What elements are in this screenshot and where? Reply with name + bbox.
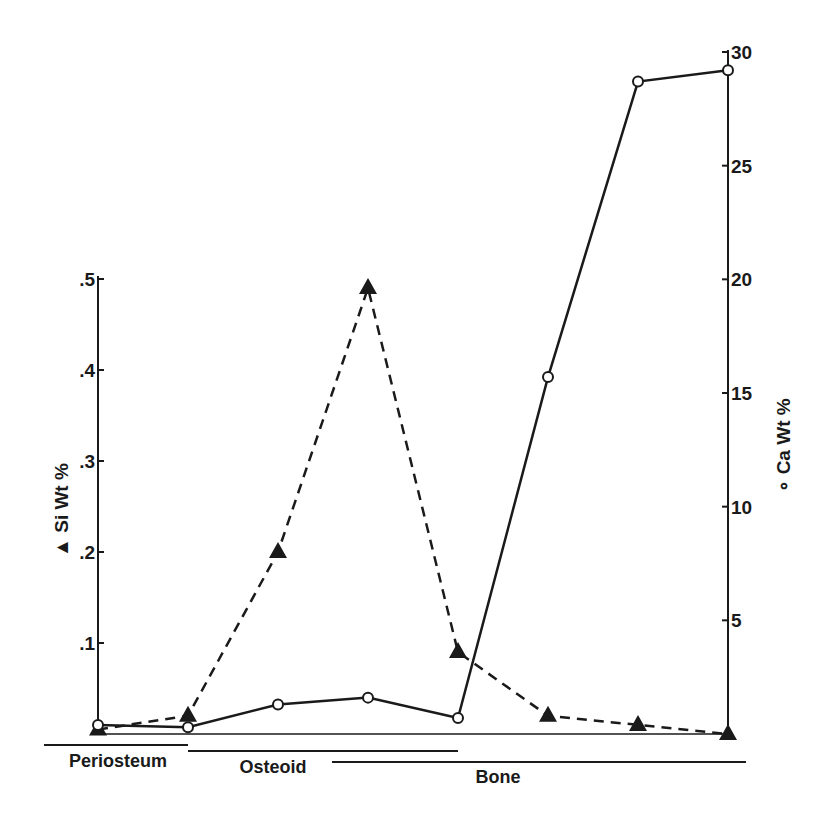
right-axis-tick-label: 30 — [731, 42, 752, 63]
triangle-marker-icon — [179, 706, 197, 722]
region-label-periosteum: Periosteum — [69, 751, 167, 771]
region-label-bone: Bone — [476, 767, 521, 787]
circle-marker-icon — [633, 77, 643, 87]
axes: .1.2.3.4.551015202530 — [79, 42, 752, 734]
circle-marker-icon — [93, 720, 103, 730]
region-label-osteoid: Osteoid — [239, 757, 306, 777]
chart-figure: .1.2.3.4.551015202530 ▲ Si Wt % ∘ Ca Wt … — [0, 0, 823, 814]
circle-marker-icon — [453, 713, 463, 723]
triangle-marker-icon — [629, 715, 647, 731]
circle-marker-icon — [273, 699, 283, 709]
series-layer — [89, 65, 737, 740]
left-axis-tick-label: .3 — [79, 451, 95, 472]
si-series-line — [98, 288, 728, 734]
left-axis-tick-label: .4 — [79, 360, 95, 381]
left-axis-tick-label: .2 — [79, 542, 95, 563]
triangle-marker-icon — [449, 642, 467, 658]
right-axis-tick-label: 20 — [731, 269, 752, 290]
triangle-marker-icon — [359, 278, 377, 294]
right-axis-tick-label: 25 — [731, 156, 753, 177]
right-axis-tick-label: 15 — [731, 383, 753, 404]
right-axis-title: ∘ Ca Wt % — [773, 398, 794, 491]
left-axis-tick-label: .1 — [79, 633, 95, 654]
triangle-marker-icon — [539, 706, 557, 722]
circle-marker-icon — [363, 693, 373, 703]
triangle-marker-icon — [719, 724, 737, 740]
circle-marker-icon — [723, 65, 733, 75]
right-axis-tick-label: 10 — [731, 497, 752, 518]
left-axis-tick-label: .5 — [79, 269, 95, 290]
triangle-marker-icon — [269, 542, 287, 558]
circle-marker-icon — [543, 372, 553, 382]
chart-svg: .1.2.3.4.551015202530 ▲ Si Wt % ∘ Ca Wt … — [0, 0, 823, 814]
circle-marker-icon — [183, 722, 193, 732]
right-axis-tick-label: 5 — [731, 610, 742, 631]
left-axis-title: ▲ Si Wt % — [51, 463, 72, 557]
ca-series-line — [98, 70, 728, 727]
